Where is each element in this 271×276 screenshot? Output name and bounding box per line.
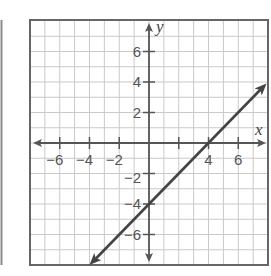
x-tick-label: 4 — [204, 151, 212, 168]
x-tick-label: −4 — [76, 151, 93, 168]
y-tick-label: 6 — [133, 43, 141, 60]
axes — [33, 23, 266, 262]
y-tick-label: 2 — [133, 104, 141, 121]
y-tick-label: −2 — [124, 169, 141, 186]
x-tick-label: −6 — [46, 151, 63, 168]
y-tick-label: 4 — [133, 73, 141, 90]
x-tick-label: −2 — [106, 151, 123, 168]
x-axis-label: x — [254, 120, 263, 139]
line-series — [89, 84, 266, 265]
y-tick-label: −4 — [124, 195, 141, 212]
x-tick-label: 6 — [234, 151, 242, 168]
y-axis-label: y — [154, 17, 164, 36]
plotted-line — [95, 90, 260, 259]
coordinate-graph: −6−4−246642−2−4−6 x y — [0, 0, 271, 276]
